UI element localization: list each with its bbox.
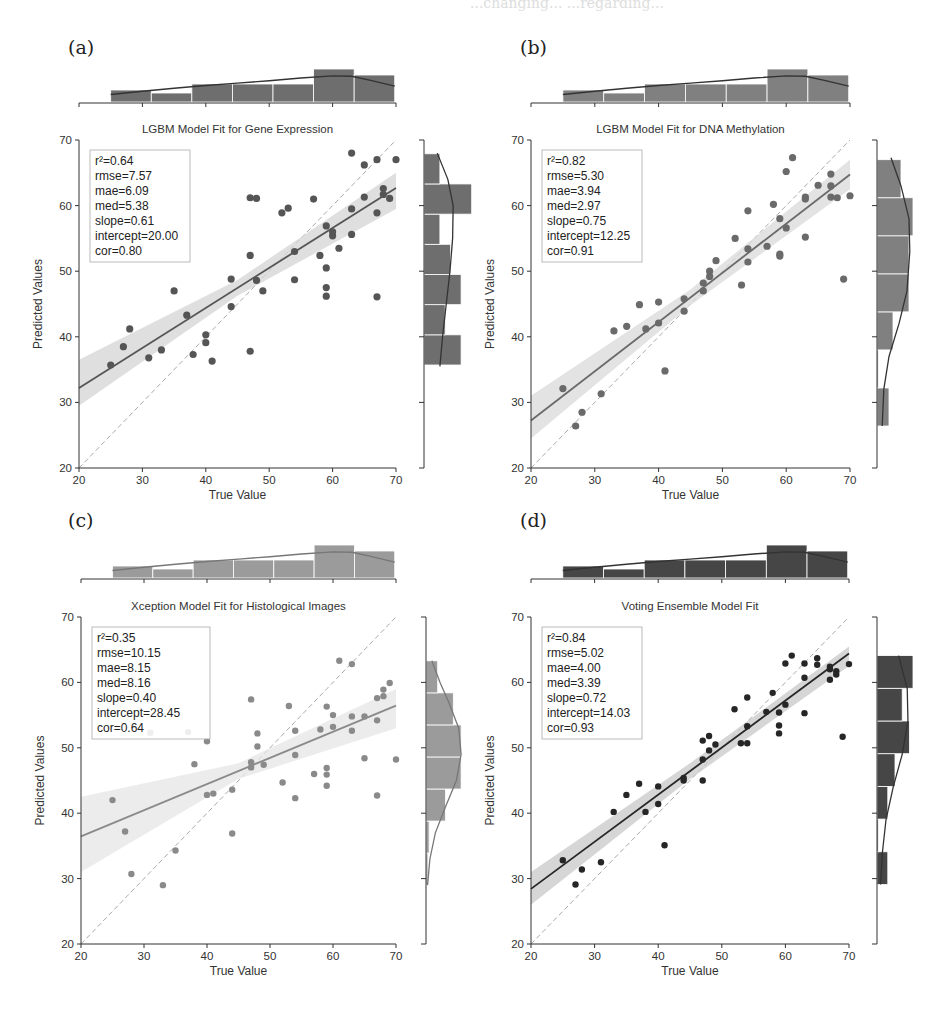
data-point xyxy=(559,385,566,392)
histogram-bar xyxy=(424,274,461,304)
data-point xyxy=(324,771,330,777)
y-tick-label: 30 xyxy=(511,396,524,408)
data-point xyxy=(247,252,254,259)
x-tick-label: 40 xyxy=(199,474,212,486)
data-point xyxy=(317,726,323,732)
stat-line: mae=3.94 xyxy=(547,184,601,198)
x-tick-label: 30 xyxy=(136,474,149,486)
x-tick-label: 50 xyxy=(715,950,728,962)
stat-line: cor=0.91 xyxy=(547,244,594,258)
data-point xyxy=(247,194,254,201)
data-point xyxy=(706,747,712,753)
data-point xyxy=(120,343,127,350)
data-point xyxy=(655,298,662,305)
histogram-bar xyxy=(877,160,901,198)
data-point xyxy=(286,703,292,709)
data-point xyxy=(642,809,648,815)
data-point xyxy=(172,847,178,853)
data-point xyxy=(776,722,782,728)
histogram-bar xyxy=(877,274,909,312)
histogram-bar xyxy=(808,75,849,102)
stat-line: rmse=5.30 xyxy=(547,169,604,183)
data-point xyxy=(285,205,292,212)
data-point xyxy=(636,301,643,308)
x-axis-label: True Value xyxy=(661,964,719,978)
stat-line: rmse=7.57 xyxy=(95,169,152,183)
data-point xyxy=(598,859,604,865)
histogram-bar xyxy=(726,560,767,578)
data-point xyxy=(335,245,342,252)
data-point xyxy=(827,193,834,200)
data-point xyxy=(839,733,845,739)
data-point xyxy=(324,783,330,789)
stat-line: cor=0.93 xyxy=(547,721,594,735)
y-tick-label: 20 xyxy=(511,938,524,950)
stat-line: rmse=5.02 xyxy=(547,646,604,660)
data-point xyxy=(706,733,712,739)
data-point xyxy=(572,422,579,429)
data-point xyxy=(253,195,260,202)
histogram-bar xyxy=(424,244,451,274)
x-tick-label: 50 xyxy=(716,474,729,486)
data-point xyxy=(279,779,285,785)
panel-label: (b) xyxy=(520,36,547,58)
histogram-bar xyxy=(726,84,767,102)
data-point xyxy=(744,207,751,214)
data-point xyxy=(700,737,706,743)
data-point xyxy=(128,871,134,877)
x-tick-label: 70 xyxy=(390,474,403,486)
data-point xyxy=(380,686,386,692)
x-tick-label: 50 xyxy=(263,474,276,486)
histogram-bar xyxy=(424,154,440,184)
data-point xyxy=(348,205,355,212)
data-point xyxy=(661,367,668,374)
histogram-bar xyxy=(153,569,193,578)
x-tick-label: 60 xyxy=(326,474,339,486)
histogram-bar xyxy=(426,789,446,821)
data-point xyxy=(160,882,166,888)
data-point xyxy=(361,755,367,761)
panel-label: (a) xyxy=(68,36,94,58)
x-tick-label: 20 xyxy=(73,474,86,486)
stats-legend-box: r²=0.35rmse=10.15mae=8.15med=8.16slope=0… xyxy=(92,627,210,739)
histogram-bar xyxy=(426,693,453,725)
histogram-bar xyxy=(424,214,440,244)
data-point xyxy=(109,797,115,803)
y-tick-label: 30 xyxy=(61,873,74,885)
histogram-bar xyxy=(426,725,461,757)
histogram-bar xyxy=(426,757,461,789)
panel-a: (a)LGBM Model Fit for Gene Expression203… xyxy=(31,36,472,502)
histogram-bar xyxy=(151,93,192,102)
histogram-bar xyxy=(877,236,909,274)
x-tick-label: 60 xyxy=(779,950,792,962)
data-point xyxy=(738,281,745,288)
top-marginal-histogram xyxy=(531,545,849,583)
y-axis-label: Predicted Values xyxy=(33,736,47,826)
stat-line: r²=0.35 xyxy=(97,631,136,645)
data-point xyxy=(254,743,260,749)
top-marginal-histogram xyxy=(81,545,396,583)
stat-line: rmse=10.15 xyxy=(97,646,161,660)
data-point xyxy=(789,652,795,658)
data-point xyxy=(763,243,770,250)
histogram-bar xyxy=(807,551,848,578)
x-tick-label: 40 xyxy=(201,950,214,962)
data-point xyxy=(655,783,661,789)
data-point xyxy=(579,866,585,872)
histogram-bar xyxy=(273,84,314,102)
data-point xyxy=(349,728,355,734)
histogram-bar xyxy=(424,305,445,335)
data-point xyxy=(247,348,254,355)
stat-line: mae=4.00 xyxy=(547,661,601,675)
y-tick-label: 40 xyxy=(59,331,72,343)
data-point xyxy=(572,881,578,887)
data-point xyxy=(349,661,355,667)
data-point xyxy=(324,703,330,709)
data-point xyxy=(814,662,820,668)
data-point xyxy=(783,168,790,175)
y-axis-label: Predicted Values xyxy=(31,259,45,349)
x-tick-label: 70 xyxy=(843,950,856,962)
top-marginal-histogram xyxy=(79,69,396,107)
chart-title: Xception Model Fit for Histological Imag… xyxy=(131,600,346,612)
histogram-bar xyxy=(877,754,895,787)
